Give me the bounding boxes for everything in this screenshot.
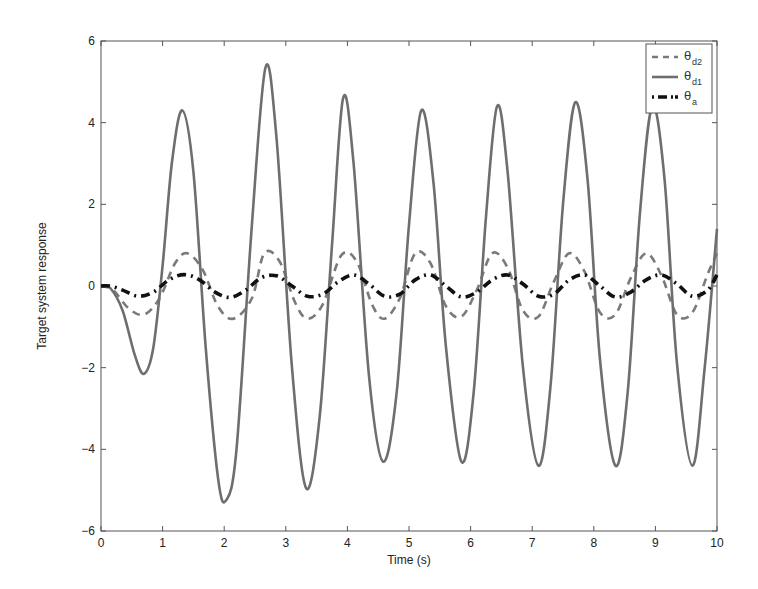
plot-area [101, 41, 717, 531]
legend: θd2θd1θa [646, 44, 712, 113]
y-axis-label: Target system response [35, 222, 49, 350]
legend-label: θ [684, 68, 691, 83]
legend-subscript: d1 [692, 77, 702, 87]
y-tick-label: −2 [81, 361, 95, 375]
x-tick-label: 1 [159, 536, 166, 550]
x-tick-label: 4 [344, 536, 351, 550]
x-tick-label: 0 [98, 536, 105, 550]
y-tick-label: −6 [81, 524, 95, 538]
y-tick-label: 0 [88, 279, 95, 293]
x-tick-label: 6 [467, 536, 474, 550]
x-tick-label: 10 [710, 536, 724, 550]
x-tick-label: 3 [282, 536, 289, 550]
y-tick-label: 4 [88, 116, 95, 130]
y-tick-label: 2 [88, 197, 95, 211]
x-axis-label: Time (s) [387, 553, 431, 567]
legend-subscript: a [692, 97, 697, 107]
x-tick-label: 9 [652, 536, 659, 550]
x-tick-label: 2 [221, 536, 228, 550]
y-tick-label: 6 [88, 34, 95, 48]
line-chart: 012345678910 −6−4−20246 Time (s) Target … [0, 0, 758, 589]
x-tick-label: 7 [529, 536, 536, 550]
legend-label: θ [684, 88, 691, 103]
x-tick-label: 8 [590, 536, 597, 550]
legend-subscript: d2 [692, 57, 702, 67]
y-tick-label: −4 [81, 442, 95, 456]
legend-label: θ [684, 48, 691, 63]
x-tick-label: 5 [406, 536, 413, 550]
